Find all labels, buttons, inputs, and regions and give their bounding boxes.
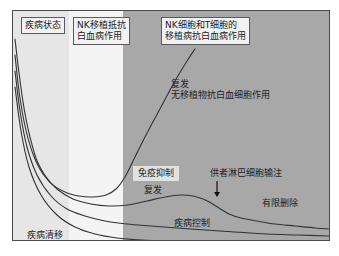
- chart-frame: 免疫抑制 复发 无移植物抗白血细胞作用 复发 供者淋巴细胞输注 有限删除 疾病控…: [12, 10, 330, 241]
- label-box-nk-resist-leukemia: NK移植抵抗 白血病作用: [73, 17, 130, 45]
- curve-疾病清移: [15, 87, 329, 241]
- label-limited-deletion: 有限删除: [262, 198, 298, 209]
- annotation-group: [214, 181, 220, 197]
- label-disease-control: 疾病控制: [174, 218, 210, 229]
- label-box-nk-t-gvl: NK细胞和T细胞的 移植病抗白血病作用: [161, 17, 250, 45]
- figure-root: 免疫抑制 复发 无移植物抗白血细胞作用 复发 供者淋巴细胞输注 有限删除 疾病控…: [0, 0, 339, 256]
- label-donor-lymphocyte-infusion: 供者淋巴细胞输注: [210, 168, 282, 179]
- label-box-disease-state: 疾病状态: [21, 17, 65, 34]
- label-immunosuppression: 免疫抑制: [133, 166, 179, 181]
- label-relapse-mid: 复发: [144, 185, 162, 196]
- annotation-arrow-head: [214, 192, 220, 197]
- label-remission: 疾病清移: [27, 230, 63, 241]
- label-relapse-no-gvl: 复发 无移植物抗白血细胞作用: [171, 79, 270, 101]
- series-group: [15, 39, 329, 241]
